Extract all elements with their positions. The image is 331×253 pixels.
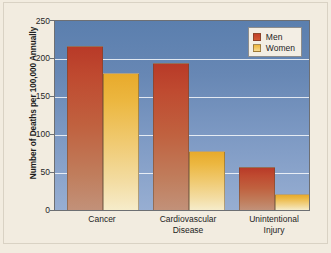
x-tick-label-line2: Disease [144, 225, 232, 236]
legend-label-men: Men [266, 32, 283, 42]
bar-women-cardiovascular-disease[interactable] [189, 151, 225, 210]
x-tick-label-line1: Cardiovascular [160, 214, 217, 224]
chart-legend: Men Women [248, 27, 302, 57]
bar-men-unintentional-injury[interactable] [239, 167, 275, 210]
x-tick-label-line2: Injury [230, 225, 318, 236]
x-tick-label-cancer: Cancer [58, 214, 146, 225]
x-tick-label-line1: Unintentional [249, 214, 299, 224]
x-axis-tick-labels: Cancer Cardiovascular Disease Unintentio… [54, 214, 310, 248]
y-tick-label: 50 [24, 168, 50, 176]
y-tick-label: 100 [24, 130, 50, 138]
y-tick-label: 250 [24, 17, 50, 25]
legend-label-women: Women [266, 43, 295, 53]
legend-item-men: Men [253, 31, 295, 42]
y-axis-tick-labels: 250 200 150 100 50 0 [22, 0, 50, 253]
bar-men-cardiovascular-disease[interactable] [153, 63, 189, 210]
chart-figure: Number of Deaths per 100,000 Annually 25… [0, 0, 331, 253]
y-tick-label: 150 [24, 92, 50, 100]
x-tick-label-unintentional-injury: Unintentional Injury [230, 214, 318, 236]
men-color-swatch-icon [253, 33, 261, 41]
plot-area: Men Women [54, 20, 310, 211]
bar-women-unintentional-injury[interactable] [275, 194, 310, 210]
bar-women-cancer[interactable] [103, 73, 139, 210]
x-tick-label-cardiovascular-disease: Cardiovascular Disease [144, 214, 232, 236]
women-color-swatch-icon [253, 44, 261, 52]
bar-men-cancer[interactable] [67, 46, 103, 210]
y-tick-label: 200 [24, 54, 50, 62]
x-tick-label-line1: Cancer [88, 214, 115, 224]
legend-item-women: Women [253, 42, 295, 53]
y-tick-label: 0 [24, 206, 50, 214]
